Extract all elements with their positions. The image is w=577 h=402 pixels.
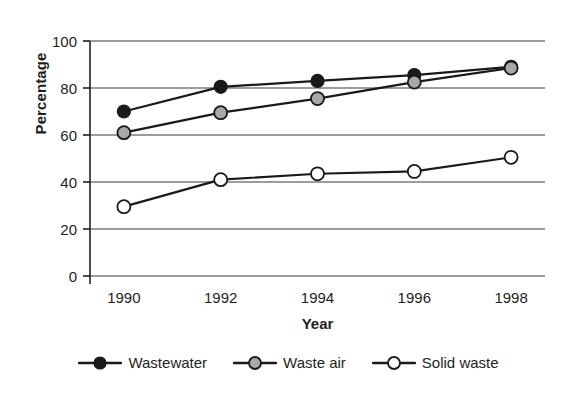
data-point-waste-air-1996	[408, 76, 421, 89]
legend-label-wastewater: Wastewater	[128, 354, 207, 371]
data-point-solid-waste-1994	[311, 167, 324, 180]
legend-label-solid-waste: Solid waste	[422, 354, 499, 371]
data-point-waste-air-1992	[214, 106, 227, 119]
x-tick-label-1994: 1994	[301, 289, 334, 306]
chart-legend: WastewaterWaste airSolid waste	[0, 354, 577, 371]
x-tick-label-1992: 1992	[204, 289, 237, 306]
data-point-waste-air-1990	[117, 126, 130, 139]
y-tick-label-80: 80	[0, 80, 77, 97]
data-point-wastewater-1992	[214, 80, 227, 93]
data-point-wastewater-1994	[311, 74, 324, 87]
legend-item-wastewater[interactable]: Wastewater	[78, 354, 207, 371]
line-chart: Percentage WastewaterWaste airSolid wast…	[0, 0, 577, 402]
data-point-waste-air-1998	[505, 62, 518, 75]
data-point-solid-waste-1998	[505, 151, 518, 164]
data-point-solid-waste-1990	[117, 200, 130, 213]
legend-item-solid-waste[interactable]: Solid waste	[372, 354, 499, 371]
legend-marker-waste-air	[233, 355, 277, 371]
plot-area	[0, 0, 577, 402]
data-point-wastewater-1990	[117, 105, 130, 118]
x-tick-label-1998: 1998	[494, 289, 527, 306]
data-point-solid-waste-1996	[408, 165, 421, 178]
y-tick-label-100: 100	[0, 33, 77, 50]
legend-marker-wastewater	[78, 355, 122, 371]
data-point-solid-waste-1992	[214, 173, 227, 186]
y-tick-label-60: 60	[0, 127, 77, 144]
x-axis-title: Year	[302, 315, 334, 332]
legend-label-waste-air: Waste air	[283, 354, 346, 371]
legend-item-waste-air[interactable]: Waste air	[233, 354, 346, 371]
legend-marker-solid-waste	[372, 355, 416, 371]
x-tick-label-1990: 1990	[107, 289, 140, 306]
y-tick-label-40: 40	[0, 174, 77, 191]
x-tick-label-1996: 1996	[398, 289, 431, 306]
y-tick-label-20: 20	[0, 221, 77, 238]
y-tick-label-0: 0	[0, 268, 77, 285]
data-point-waste-air-1994	[311, 92, 324, 105]
